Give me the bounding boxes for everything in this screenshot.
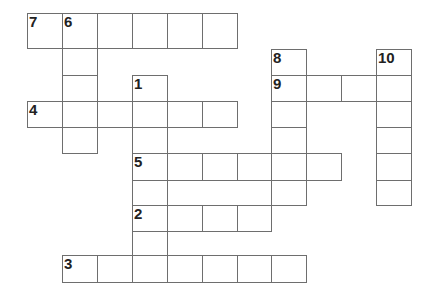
crossword-cell[interactable]: [167, 101, 203, 128]
crossword-cell-9[interactable]: 9: [271, 75, 307, 102]
crossword-cell[interactable]: [132, 127, 168, 154]
crossword-cell[interactable]: [97, 101, 133, 128]
crossword-cell[interactable]: [376, 75, 412, 102]
clue-number: 6: [64, 14, 72, 30]
crossword-cell[interactable]: [132, 231, 168, 256]
crossword-cell[interactable]: [306, 153, 342, 181]
clue-number: 1: [134, 76, 142, 92]
crossword-cell[interactable]: [167, 205, 203, 232]
crossword-grid: 76145238910: [0, 0, 429, 297]
clue-number: 7: [29, 14, 37, 30]
crossword-cell-3[interactable]: 3: [62, 255, 98, 283]
crossword-cell[interactable]: [62, 48, 98, 76]
clue-number: 8: [273, 50, 281, 66]
crossword-cell-4[interactable]: 4: [27, 101, 63, 128]
crossword-cell-8[interactable]: 8: [271, 49, 307, 76]
crossword-cell-1[interactable]: 1: [132, 75, 168, 102]
crossword-cell[interactable]: [202, 153, 238, 181]
crossword-cell[interactable]: [132, 255, 168, 283]
crossword-cell[interactable]: [271, 180, 307, 206]
crossword-cell[interactable]: [237, 205, 272, 232]
crossword-cell[interactable]: [167, 153, 203, 181]
crossword-cell[interactable]: [376, 127, 412, 154]
crossword-cell[interactable]: [271, 101, 307, 128]
crossword-cell-6[interactable]: 6: [62, 13, 98, 49]
crossword-cell[interactable]: [62, 101, 98, 128]
crossword-cell-10[interactable]: 10: [376, 49, 412, 76]
crossword-cell[interactable]: [132, 180, 168, 206]
crossword-cell[interactable]: [237, 255, 272, 283]
crossword-cell[interactable]: [132, 13, 168, 49]
crossword-cell[interactable]: [202, 255, 238, 283]
clue-number: 9: [273, 76, 281, 92]
crossword-cell-2[interactable]: 2: [132, 205, 168, 232]
crossword-cell[interactable]: [202, 13, 238, 49]
crossword-cell[interactable]: [341, 75, 377, 102]
crossword-cell[interactable]: [167, 255, 203, 283]
crossword-cell[interactable]: [376, 101, 412, 128]
clue-number: 2: [134, 206, 142, 222]
crossword-cell[interactable]: [271, 255, 307, 283]
crossword-cell[interactable]: [97, 255, 133, 283]
crossword-cell[interactable]: [202, 205, 238, 232]
crossword-cell-7[interactable]: 7: [27, 13, 63, 49]
crossword-cell[interactable]: [271, 127, 307, 154]
crossword-cell[interactable]: [97, 13, 133, 49]
crossword-cell[interactable]: [271, 153, 307, 181]
crossword-cell[interactable]: [376, 153, 412, 181]
crossword-cell[interactable]: [376, 180, 412, 206]
crossword-cell-5[interactable]: 5: [132, 153, 168, 181]
crossword-cell[interactable]: [167, 13, 203, 49]
crossword-cell[interactable]: [202, 101, 238, 128]
clue-number: 5: [134, 154, 142, 170]
crossword-cell[interactable]: [62, 127, 98, 154]
crossword-cell[interactable]: [237, 153, 272, 181]
crossword-cell[interactable]: [62, 75, 98, 102]
crossword-cell[interactable]: [306, 75, 342, 102]
clue-number: 3: [64, 256, 72, 272]
clue-number: 10: [378, 50, 395, 66]
clue-number: 4: [29, 102, 37, 118]
crossword-cell[interactable]: [132, 101, 168, 128]
